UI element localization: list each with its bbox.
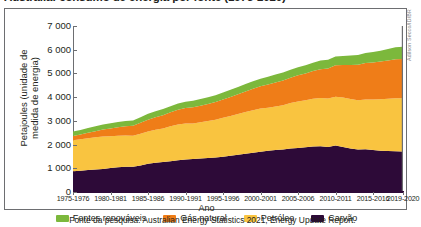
x-tick-mark [73, 192, 74, 195]
plot-right-edge [402, 26, 403, 192]
x-tick-label: 1980-1981 [94, 194, 127, 203]
chart-figure: Austrália: consumo de energia por fonte … [0, 0, 421, 227]
plot-area [73, 26, 403, 192]
x-tick-label: 2019-2020 [387, 194, 420, 203]
x-tick-label: 1990-1991 [169, 194, 202, 203]
x-tick-label: 1975-1976 [57, 194, 90, 203]
y-tick-label: 4 000 [47, 92, 71, 102]
y-tick-label: 1 000 [47, 163, 71, 173]
x-tick-label: 2000-2001 [244, 194, 277, 203]
y-tick-label: 2 000 [47, 140, 71, 150]
x-tick-label: 1995-1996 [207, 194, 240, 203]
chart-frame: Petajoules (unidade de medida de energia… [4, 8, 407, 210]
image-credit: Adilson Secco/ID/BR [406, 0, 412, 61]
x-tick-mark [373, 192, 374, 195]
y-tick-mark [73, 50, 77, 51]
x-tick-mark [298, 192, 299, 195]
y-tick-label: 7 000 [47, 21, 71, 31]
source-caption: Fonte da pesquisa: Australian Energy Sta… [4, 215, 421, 226]
y-axis-tick-labels: 01 0002 0003 0004 0005 0006 0007 000 [31, 19, 71, 201]
chart-title: Austrália: consumo de energia por fonte … [4, 0, 304, 5]
x-tick-mark [336, 192, 337, 195]
y-tick-mark [73, 73, 77, 74]
x-tick-mark [111, 192, 112, 195]
y-tick-label: 6 000 [47, 45, 71, 55]
x-axis-line [73, 191, 404, 193]
x-tick-label: 1985-1986 [132, 194, 165, 203]
x-tick-label: 2015-2016 [357, 194, 390, 203]
x-tick-mark [186, 192, 187, 195]
y-tick-mark [73, 168, 77, 169]
y-tick-mark [73, 145, 77, 146]
x-tick-label: 2005-2006 [282, 194, 315, 203]
stacked-area-svg [73, 26, 403, 192]
y-tick-label: 5 000 [47, 68, 71, 78]
y-tick-label: 3 000 [47, 116, 71, 126]
x-tick-mark [148, 192, 149, 195]
y-tick-mark [73, 97, 77, 98]
x-tick-mark [403, 192, 404, 195]
y-tick-mark [73, 121, 77, 122]
x-tick-mark [261, 192, 262, 195]
x-tick-mark [223, 192, 224, 195]
x-tick-label: 2010-2011 [319, 194, 351, 203]
y-tick-mark [73, 26, 77, 27]
